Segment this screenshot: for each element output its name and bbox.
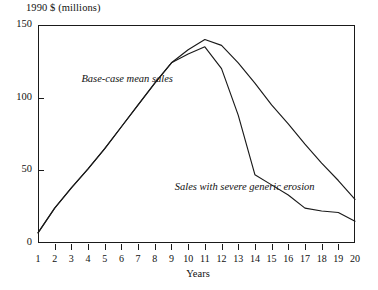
x-tick-mark — [205, 244, 206, 250]
x-tick-mark — [255, 244, 256, 250]
x-tick-mark — [171, 244, 172, 250]
x-tick-mark — [338, 244, 339, 250]
y-tick-label: 50 — [2, 163, 32, 174]
x-tick-label: 20 — [344, 253, 366, 264]
series-annotation: Base-case mean sales — [81, 73, 173, 84]
y-tick-label: 100 — [2, 91, 32, 102]
x-tick-mark — [138, 244, 139, 250]
x-tick-mark — [322, 244, 323, 250]
y-tick-mark — [38, 98, 44, 99]
x-tick-mark — [188, 244, 189, 250]
x-axis-title: Years — [168, 268, 228, 279]
x-tick-mark — [305, 244, 306, 250]
series-annotation: Sales with severe generic erosion — [175, 181, 315, 192]
x-tick-mark — [155, 244, 156, 250]
x-tick-mark — [272, 244, 273, 250]
x-tick-mark — [288, 244, 289, 250]
chart-figure: 1990 $ (millions) 050100150 123456789101… — [0, 0, 378, 290]
x-tick-mark — [88, 244, 89, 250]
x-tick-mark — [238, 244, 239, 250]
y-tick-label: 0 — [2, 236, 32, 247]
x-tick-mark — [105, 244, 106, 250]
series-line-base-case — [38, 40, 355, 233]
x-tick-mark — [121, 244, 122, 250]
x-tick-mark — [55, 244, 56, 250]
y-tick-label: 150 — [2, 18, 32, 29]
x-tick-mark — [71, 244, 72, 250]
y-tick-mark — [38, 170, 44, 171]
x-tick-mark — [222, 244, 223, 250]
